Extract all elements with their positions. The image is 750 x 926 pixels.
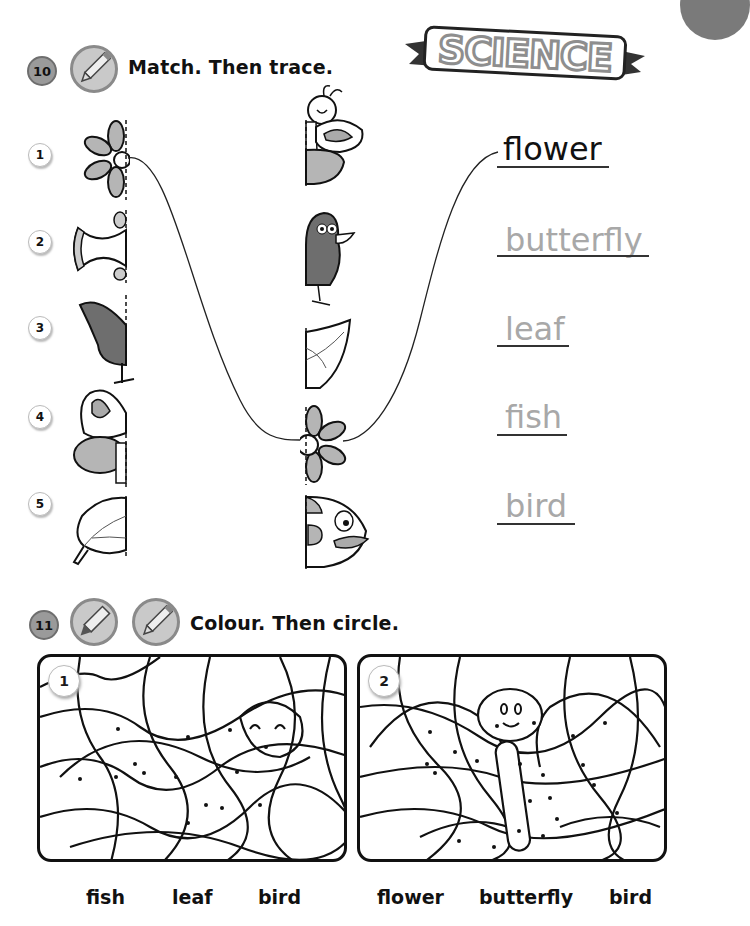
exercise-instruction: Match. Then trace. xyxy=(128,56,333,78)
trace-word-bird[interactable]: bird xyxy=(505,488,567,524)
word-underline xyxy=(497,255,649,257)
svg-text:SCIENCE: SCIENCE xyxy=(437,27,613,80)
word-underline xyxy=(497,345,569,347)
banner-ribbon-icon: SCIENCE xyxy=(405,22,645,82)
half-leaf-icon[interactable] xyxy=(70,496,130,566)
option-bird[interactable]: bird xyxy=(609,886,652,908)
row-number: 3 xyxy=(28,316,52,340)
option-butterfly[interactable]: butterfly xyxy=(479,886,573,908)
exercise-instruction: Colour. Then circle. xyxy=(190,612,399,634)
half-fish-tail-icon[interactable] xyxy=(70,208,130,283)
word-underline xyxy=(497,523,575,525)
option-flower[interactable]: flower xyxy=(377,886,444,908)
half-fish-head-icon[interactable] xyxy=(300,495,375,570)
exercise-number: 10 xyxy=(33,64,51,79)
half-flower-right-icon[interactable] xyxy=(300,405,350,485)
pencil-icon xyxy=(132,598,180,646)
colour-panel-1[interactable]: 1 xyxy=(37,654,347,862)
half-leaf-right-icon[interactable] xyxy=(300,318,360,393)
option-leaf[interactable]: leaf xyxy=(172,886,213,908)
word-underline xyxy=(497,166,609,168)
half-butterfly-wing-icon[interactable] xyxy=(70,383,130,488)
half-butterfly-right-icon[interactable] xyxy=(300,82,370,192)
half-flower-left-icon[interactable] xyxy=(70,120,130,200)
panel-number: 1 xyxy=(48,665,80,697)
option-fish[interactable]: fish xyxy=(86,886,125,908)
row-number: 2 xyxy=(28,230,52,254)
pencil-icon xyxy=(70,45,118,93)
hidden-picture-maze-2[interactable] xyxy=(360,657,667,862)
crayon-icon xyxy=(70,598,118,646)
trace-word-butterfly[interactable]: butterfly xyxy=(505,222,643,258)
panel-number: 2 xyxy=(368,665,400,697)
option-bird[interactable]: bird xyxy=(258,886,301,908)
trace-word-flower: flower xyxy=(503,131,602,167)
trace-word-leaf[interactable]: leaf xyxy=(505,311,564,347)
exercise-number: 11 xyxy=(35,618,53,633)
page-corner-tab xyxy=(680,0,750,40)
trace-word-fish[interactable]: fish xyxy=(505,399,562,435)
half-bird-head-icon[interactable] xyxy=(300,205,360,310)
row-number: 1 xyxy=(28,143,52,167)
row-number: 5 xyxy=(28,492,52,516)
exercise-number-badge: 11 xyxy=(29,610,59,640)
word-underline xyxy=(497,434,567,436)
colour-panel-2[interactable]: 2 xyxy=(357,654,667,862)
half-bird-tail-icon[interactable] xyxy=(70,295,140,390)
row-number: 4 xyxy=(28,405,52,429)
exercise-number-badge: 10 xyxy=(27,56,57,86)
hidden-picture-maze-1[interactable] xyxy=(40,657,347,862)
science-banner: SCIENCE xyxy=(405,22,645,82)
